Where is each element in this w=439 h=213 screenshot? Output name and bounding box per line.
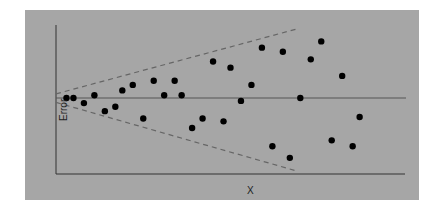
data-point: [238, 98, 244, 104]
data-point: [119, 87, 125, 93]
data-point: [269, 143, 275, 149]
data-point: [171, 78, 177, 84]
data-point: [227, 64, 233, 70]
data-point: [248, 82, 254, 88]
data-point: [259, 44, 265, 50]
data-point: [130, 82, 136, 88]
data-point: [178, 92, 184, 98]
chart-panel: X Error: [25, 10, 419, 200]
data-point: [189, 125, 195, 131]
data-point: [339, 73, 345, 79]
data-point: [297, 95, 303, 101]
data-point: [151, 78, 157, 84]
data-point: [287, 155, 293, 161]
data-point: [349, 143, 355, 149]
data-point: [329, 137, 335, 143]
data-point: [102, 108, 108, 114]
x-axis-label: X: [247, 185, 254, 196]
scatter-plot: [25, 10, 419, 200]
data-point: [140, 115, 146, 121]
data-point: [308, 56, 314, 62]
data-point: [70, 95, 76, 101]
data-point: [112, 104, 118, 110]
data-point: [356, 114, 362, 120]
data-point: [81, 100, 87, 106]
data-point: [318, 38, 324, 44]
data-point: [210, 58, 216, 64]
data-point: [199, 115, 205, 121]
y-axis-label: Error: [58, 99, 69, 121]
data-point: [280, 49, 286, 55]
lower-envelope-line: [56, 102, 297, 171]
data-point: [161, 92, 167, 98]
upper-envelope-line: [56, 29, 297, 94]
data-point: [220, 118, 226, 124]
data-point: [91, 92, 97, 98]
